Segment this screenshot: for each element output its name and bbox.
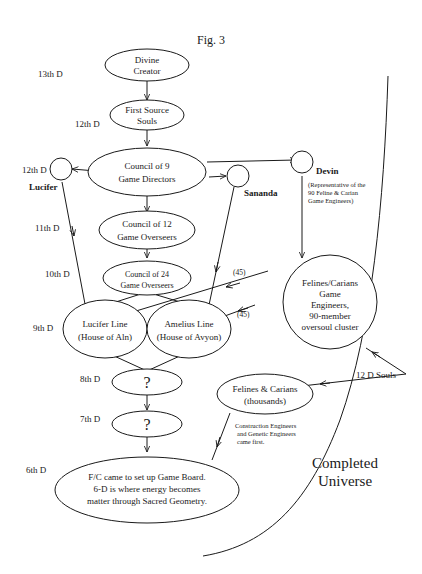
label-12d-souls: 12 D Souls [356,370,397,380]
edge-label-upper-45: (45) [233,268,246,277]
label-sananda: Sananda [244,188,278,198]
node-felines-engineers-line4: 90-member [309,311,350,321]
node-sananda-circle [227,165,249,187]
devin-note-line2: 90 Feline & Carian [308,189,359,196]
node-felines-engineers-line2: Game [319,289,341,299]
node-6d-line2: 6-D is where energy becomes [94,484,201,494]
node-council9-line2: Game Directors [118,174,176,184]
node-felines-thousands-line2: (thousands) [244,396,286,406]
dimension-label-9th: 9th D [33,323,54,333]
node-lucifer-line-line1: Lucifer Line [82,319,127,329]
edge-council9-to-sananda [209,176,226,177]
node-first-source-line1: First Source [125,105,169,115]
node-felines-carians-thousands [217,374,313,414]
node-divine-creator [105,49,189,81]
dimension-label-8th: 8th D [80,374,101,384]
arrow-sananda-down [216,262,218,272]
dimension-label-13th: 13th D [38,69,63,79]
node-6d-line1: F/C came to set up Game Board. [88,472,206,482]
node-first-source-line2: Souls [137,116,158,126]
devin-note-line1: (Representative of the [308,181,366,189]
edge-label-lower-45: (45) [237,310,250,319]
edge-felines-thousands-to-6d [212,413,230,460]
dimension-label-12th-b: 12th D [22,165,47,175]
dimension-label-12th-a: 12th D [75,119,100,129]
devin-note-line3: Game Engineers) [308,197,353,205]
dimension-label-11th: 11th D [35,223,60,233]
node-council12-line2: Game Overseers [117,232,177,242]
edge-council9-to-devin [207,160,296,162]
node-council12-line1: Council of 12 [122,219,172,229]
figure-title: Fig. 3 [197,33,225,47]
label-lucifer: Lucifer [29,182,58,192]
arrow-felines-thousands-down [217,437,220,447]
node-council24-line1: Council of 24 [125,270,169,279]
label-devin: Devin [316,166,339,176]
note-construction-line2: and Genetic Engineers [237,430,296,437]
node-felines-thousands-line1: Felines & Carians [233,384,298,394]
arrow-12dsouls-up [372,352,380,357]
dimension-label-6th: 6th D [26,465,47,475]
arrow-12dsouls-left [320,383,330,384]
node-lucifer-line [63,300,147,358]
dimension-label-7th: 7th D [80,414,101,424]
node-felines-engineers-line3: Engineers, [311,300,349,310]
edge-lucifer-to-lucifer-line [62,182,85,304]
node-amelius-line-line2: (House of Avyon) [157,332,221,342]
node-council24-line2: Game Overseers [120,281,173,290]
node-council-of-12 [99,211,195,249]
note-construction-line1: Construction Engineers [235,422,297,429]
node-devin-circle [291,151,313,173]
node-felines-engineers-line1: Felines/Carians [302,278,358,288]
node-council-of-9 [88,148,206,196]
note-construction-line3: came first. [237,438,265,445]
node-council9-line1: Council of 9 [125,161,170,171]
region-label-universe: Universe [318,473,372,489]
node-lucifer-circle [50,158,72,180]
edge-amelius-line-to-8d [147,355,182,371]
dimension-label-10th: 10th D [45,269,70,279]
diagram-canvas: Fig. 3 Divine Creator First Source Souls… [0,0,422,574]
node-divine-creator-line2: Creator [134,66,161,76]
node-8d-question: ? [143,374,150,391]
node-7d-question: ? [143,416,150,433]
region-label-completed: Completed [312,455,378,471]
node-felines-engineers-line5: oversoul cluster [301,322,358,332]
node-amelius-line [147,300,231,358]
node-lucifer-line-line2: (House of Aln) [78,332,132,342]
node-6d-line3: matter through Sacred Geometry. [87,496,207,506]
node-amelius-line-line1: Amelius Line [164,319,213,329]
edge-lucifer-line-to-8d [112,355,147,371]
node-divine-creator-line1: Divine [135,55,160,65]
